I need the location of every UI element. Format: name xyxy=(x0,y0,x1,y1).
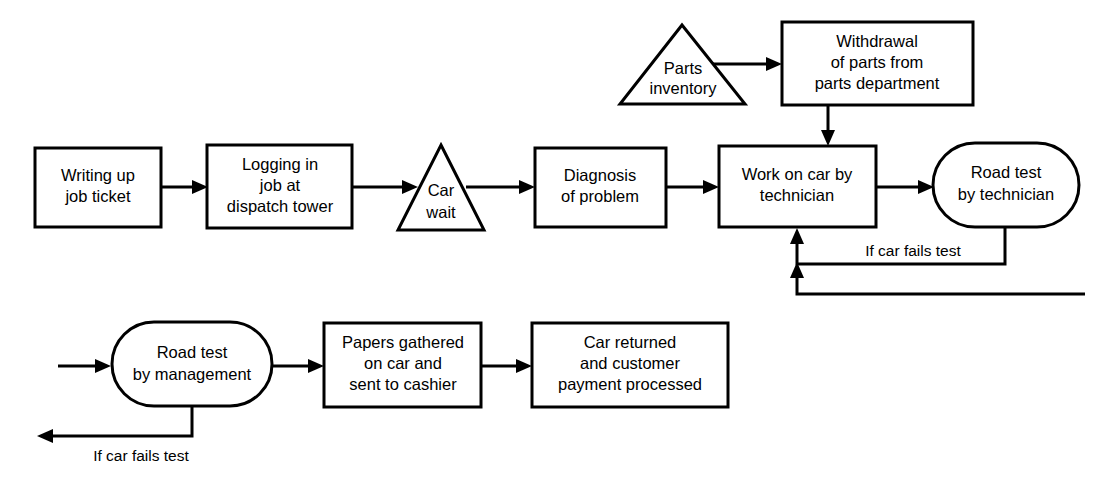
edge-label-fails-test-technician: If car fails test xyxy=(865,242,961,259)
papers-label-line-3: sent to cashier xyxy=(349,375,457,393)
diagnosis-label-line-1: Diagnosis xyxy=(564,166,636,184)
withdrawal-label-line-1: Withdrawal xyxy=(836,32,918,50)
edge-writing-to-logging xyxy=(161,180,208,194)
edge-technician-fails-test-loop: If car fails test xyxy=(790,227,1005,264)
road-test-management-label-line-1: Road test xyxy=(157,343,228,361)
node-withdrawal-of-parts[interactable]: Withdrawal of parts from parts departmen… xyxy=(782,22,973,105)
logging-label-line-2: job at xyxy=(259,176,301,194)
edge-label-fails-test-management: If car fails test xyxy=(93,447,189,464)
edge-car-wait-to-diagnosis xyxy=(466,180,535,194)
node-writing-up-job-ticket[interactable]: Writing up job ticket xyxy=(35,148,161,227)
node-logging-in-job[interactable]: Logging in job at dispatch tower xyxy=(207,145,352,228)
road-test-technician-label-line-2: by technician xyxy=(958,185,1054,203)
edge-withdrawal-to-work xyxy=(821,105,835,146)
logging-label-line-1: Logging in xyxy=(242,155,318,173)
edge-management-fails-test-exit: If car fails test xyxy=(37,406,192,464)
node-papers-gathered[interactable]: Papers gathered on car and sent to cashi… xyxy=(324,323,481,407)
car-wait-label-line-1: Car xyxy=(428,181,455,199)
edge-parts-to-withdrawal xyxy=(713,57,782,71)
road-test-technician-label-line-1: Road test xyxy=(971,163,1042,181)
edge-entry-to-road-test-management xyxy=(58,359,111,373)
writing-up-label-line-2: job ticket xyxy=(64,187,131,205)
car-returned-label-line-1: Car returned xyxy=(584,333,677,351)
flowchart-canvas: Parts inventory Withdrawal of parts from… xyxy=(0,0,1110,480)
work-on-car-label-line-2: technician xyxy=(760,186,834,204)
road-test-management-stadium xyxy=(112,322,272,406)
withdrawal-label-line-3: parts department xyxy=(815,74,940,92)
node-road-test-technician[interactable]: Road test by technician xyxy=(933,143,1079,227)
flowchart-svg: Parts inventory Withdrawal of parts from… xyxy=(0,0,1110,480)
car-returned-label-line-2: and customer xyxy=(580,354,680,372)
edge-diagnosis-to-work xyxy=(666,180,719,194)
node-diagnosis-of-problem[interactable]: Diagnosis of problem xyxy=(535,148,666,227)
work-on-car-label-line-1: Work on car by xyxy=(742,165,853,183)
edge-logging-to-car-wait xyxy=(352,180,418,194)
car-returned-label-line-3: payment processed xyxy=(558,375,702,393)
logging-label-line-3: dispatch tower xyxy=(227,197,334,215)
edge-work-to-road-test-technician xyxy=(876,180,934,194)
car-wait-label-line-2: wait xyxy=(425,203,456,221)
diagnosis-label-line-2: of problem xyxy=(561,187,639,205)
edge-management-to-papers xyxy=(272,359,324,373)
papers-label-line-2: on car and xyxy=(364,354,442,372)
parts-inventory-label-line-1: Parts xyxy=(664,59,703,77)
withdrawal-label-line-2: of parts from xyxy=(831,53,924,71)
edge-papers-to-car-returned xyxy=(481,359,532,373)
node-road-test-management[interactable]: Road test by management xyxy=(112,322,272,406)
node-work-on-car[interactable]: Work on car by technician xyxy=(719,146,876,227)
node-car-returned[interactable]: Car returned and customer payment proces… xyxy=(532,323,728,407)
writing-up-label-line-1: Writing up xyxy=(61,166,135,184)
papers-label-line-1: Papers gathered xyxy=(342,333,464,351)
edge-management-fails-test-return xyxy=(790,262,1085,294)
road-test-management-label-line-2: by management xyxy=(133,365,252,383)
parts-inventory-label-line-2: inventory xyxy=(650,79,718,97)
